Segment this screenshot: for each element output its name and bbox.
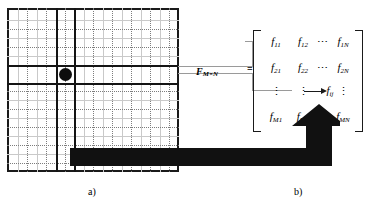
grid-dotted-vline bbox=[27, 8, 28, 172]
fij-pointer-arrowhead bbox=[321, 88, 327, 94]
selected-row-bottom-edge bbox=[7, 83, 179, 85]
caption-panel-a: a) bbox=[88, 186, 96, 197]
matrix-cell-f1N: f1N bbox=[337, 35, 348, 49]
grid-dotted-hline bbox=[7, 91, 179, 92]
cell-subscript: ij bbox=[330, 90, 334, 98]
connector-arrow-icon bbox=[70, 104, 340, 166]
selected-column-left-edge bbox=[56, 8, 58, 172]
cell-subscript: 1N bbox=[340, 41, 348, 49]
cell-subscript: MN bbox=[339, 116, 350, 124]
matrix-cell-f22: f22 bbox=[298, 61, 308, 75]
matrix-cell-f21: f21 bbox=[271, 61, 281, 75]
selected-pixel-dot bbox=[59, 68, 72, 81]
matrix-row1-ellipsis: ⋯ bbox=[317, 36, 329, 49]
grid-faint-hline bbox=[7, 20, 179, 21]
grid-dotted-hline bbox=[7, 29, 179, 30]
grid-faint-hline bbox=[7, 56, 179, 57]
cell-subscript: 21 bbox=[274, 67, 281, 75]
matrix-symbol-label: FM×N bbox=[196, 66, 218, 78]
matrix-col1-vdots: ⋮ bbox=[271, 86, 282, 97]
figure-container: FM×N = f11 f12 ⋯ f1N f21 f22 ⋯ f2N ⋮ ⋮ bbox=[0, 0, 368, 203]
matrix-row2-ellipsis: ⋯ bbox=[317, 62, 329, 75]
cell-subscript: 12 bbox=[301, 41, 308, 49]
matrix-cell-f2N: f2N bbox=[337, 61, 348, 75]
matrix-right-bracket bbox=[355, 30, 363, 132]
grid-faint-hline bbox=[7, 100, 179, 101]
matrix-cell-f11: f11 bbox=[271, 35, 281, 49]
matrix-equals-sign: = bbox=[247, 63, 253, 74]
cell-subscript: 2N bbox=[340, 67, 348, 75]
grid-dotted-hline bbox=[7, 47, 179, 48]
grid-faint-vline bbox=[37, 8, 38, 172]
grid-dotted-vline bbox=[46, 8, 47, 172]
selected-row-top-edge bbox=[7, 65, 179, 67]
matrix-colN-vdots: ⋮ bbox=[338, 86, 349, 97]
grid-faint-hline bbox=[7, 38, 179, 39]
fij-pointer-line bbox=[304, 91, 322, 92]
grid-faint-vline bbox=[18, 8, 19, 172]
cell-subscript: 11 bbox=[274, 41, 280, 49]
matrix-symbol-subscript: M×N bbox=[203, 70, 218, 78]
matrix-cell-fij: fij bbox=[327, 84, 334, 98]
grid-dotted-vline bbox=[65, 8, 66, 172]
matrix-cell-f12: f12 bbox=[298, 35, 308, 49]
cell-subscript: 22 bbox=[301, 67, 308, 75]
matrix-symbol: F bbox=[196, 66, 203, 77]
caption-panel-b: b) bbox=[294, 186, 302, 197]
